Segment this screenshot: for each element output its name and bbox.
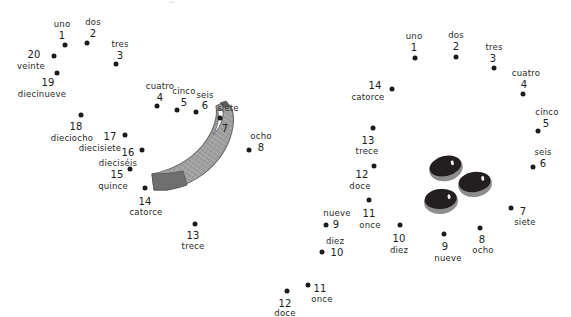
olive-highlight xyxy=(481,176,485,181)
dot-number-4: 4 xyxy=(521,79,528,90)
olive-icon-3 xyxy=(423,187,459,215)
olive-highlight xyxy=(447,194,451,199)
dot-number-10: 10 xyxy=(392,233,405,244)
dot-word-seis: seis xyxy=(534,147,551,157)
dot-11[interactable] xyxy=(367,198,372,203)
dot-number-9: 9 xyxy=(442,241,449,252)
worksheet-canvas: — 1uno2dos3tres4cuatro5cinco6seis7siete8… xyxy=(0,0,571,317)
dot-word-siete: siete xyxy=(514,217,536,227)
dot-7[interactable] xyxy=(509,206,514,211)
dot-5[interactable] xyxy=(536,129,541,134)
dot-word-dos: dos xyxy=(448,30,464,40)
dot-4[interactable] xyxy=(521,92,526,97)
dot-word-uno: uno xyxy=(406,31,423,41)
dot-word-diez: diez xyxy=(390,245,408,255)
dot-word-cinco: cinco xyxy=(535,107,558,117)
dot-number-5: 5 xyxy=(543,118,550,129)
dot-word-tres: tres xyxy=(485,42,502,52)
dot-word-once: once xyxy=(359,220,380,230)
dot-number-6: 6 xyxy=(540,158,547,169)
dot-word-ocho: ocho xyxy=(472,245,493,255)
dot-6[interactable] xyxy=(531,165,536,170)
dot-word-catorce: catorce xyxy=(351,92,384,102)
dot-number-8: 8 xyxy=(479,234,486,245)
dot-number-1: 1 xyxy=(411,42,418,53)
dot-number-13: 13 xyxy=(361,135,374,146)
dot-word-trece: trece xyxy=(356,146,379,156)
dot-word-cuatro: cuatro xyxy=(512,68,540,78)
dot-number-11: 11 xyxy=(362,208,375,219)
dot-12[interactable] xyxy=(372,164,377,169)
dot-number-12: 12 xyxy=(355,169,368,180)
dot-word-doce: doce xyxy=(349,181,370,191)
dot-3[interactable] xyxy=(492,66,497,71)
dot-2[interactable] xyxy=(454,55,459,60)
dot-number-2: 2 xyxy=(453,41,460,52)
dot-number-3: 3 xyxy=(490,53,497,64)
dot-1[interactable] xyxy=(413,56,418,61)
dot-10[interactable] xyxy=(398,223,403,228)
dot-word-nueve: nueve xyxy=(434,253,461,263)
right-puzzle-olives: 1uno2dos3tres4cuatro5cinco6seis7siete8oc… xyxy=(0,0,571,317)
dot-8[interactable] xyxy=(478,226,483,231)
dot-number-14: 14 xyxy=(368,80,381,91)
dot-number-7: 7 xyxy=(520,206,527,217)
olive-icon-2 xyxy=(456,170,493,199)
dot-14[interactable] xyxy=(390,87,395,92)
dot-9[interactable] xyxy=(442,232,447,237)
dot-13[interactable] xyxy=(371,126,376,131)
